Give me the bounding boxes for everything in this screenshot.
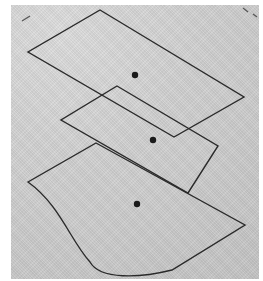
middle-plane <box>61 86 218 193</box>
middle-plane-center-point <box>150 137 156 143</box>
top-plane-center-point <box>132 72 138 78</box>
scan-mark-top-right-2 <box>253 14 257 17</box>
stacked-planes-diagram <box>0 0 263 281</box>
scan-mark-top-left <box>22 16 30 21</box>
scan-mark-top-right <box>243 8 248 12</box>
bottom-plane-center-point <box>134 201 140 207</box>
